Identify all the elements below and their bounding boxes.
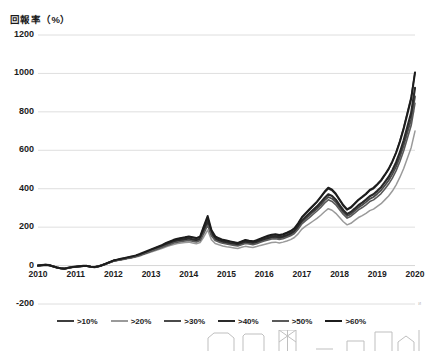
y-axis-tick-label: 600 <box>0 144 34 154</box>
x-axis-tick-label: 2010 <box>20 269 56 279</box>
y-axis-tick-label: 400 <box>0 183 34 193</box>
y-axis-tick-label: -200 <box>0 298 34 308</box>
skyline-decoration <box>0 330 423 351</box>
legend-item[interactable]: >60% <box>325 317 366 326</box>
plot-area: 120010008006004002000-200201020112012201… <box>0 27 423 312</box>
x-axis-tick-label: 2012 <box>95 269 131 279</box>
x-axis-tick-label: 2018 <box>322 269 358 279</box>
x-axis-tick-label: 2011 <box>58 269 94 279</box>
legend-line-swatch <box>272 320 289 322</box>
y-axis-title: 回報率（%） <box>10 12 71 26</box>
y-axis-tick-label: 200 <box>0 221 34 231</box>
legend-line-swatch <box>164 320 181 322</box>
series-line-50 <box>38 103 415 268</box>
y-axis-tick-label: 800 <box>0 106 34 116</box>
x-axis-tick-label: 2017 <box>284 269 320 279</box>
legend-line-swatch <box>57 320 74 322</box>
x-axis-tick-label: 2013 <box>133 269 169 279</box>
series-line-10 <box>38 72 415 268</box>
legend-item[interactable]: >30% <box>164 317 205 326</box>
x-axis-tick-label: 2014 <box>171 269 207 279</box>
legend-line-swatch <box>325 320 342 322</box>
x-axis-tick-label: 2016 <box>246 269 282 279</box>
legend-item[interactable]: >20% <box>111 317 152 326</box>
legend-item[interactable]: >50% <box>272 317 313 326</box>
y-axis-tick-label: 1200 <box>0 29 34 39</box>
legend-label: >10% <box>77 317 98 326</box>
legend-line-swatch <box>111 320 128 322</box>
x-axis-tick-label: 2019 <box>359 269 395 279</box>
legend-label: >40% <box>238 317 259 326</box>
legend-item[interactable]: >40% <box>218 317 259 326</box>
legend-label: >50% <box>292 317 313 326</box>
legend-label: >20% <box>131 317 152 326</box>
legend-label: >60% <box>345 317 366 326</box>
x-axis-tick-label: 2015 <box>209 269 245 279</box>
x-axis-tick-label: 2020 <box>397 269 429 279</box>
legend-label: >30% <box>184 317 205 326</box>
legend-line-swatch <box>218 320 235 322</box>
chart-legend: >10%>20%>30%>40%>50%>60% <box>0 312 423 330</box>
edge-artifact: и <box>418 300 421 306</box>
y-axis-tick-label: 1000 <box>0 67 34 77</box>
legend-item[interactable]: >10% <box>57 317 98 326</box>
series-line-60 <box>38 72 415 268</box>
